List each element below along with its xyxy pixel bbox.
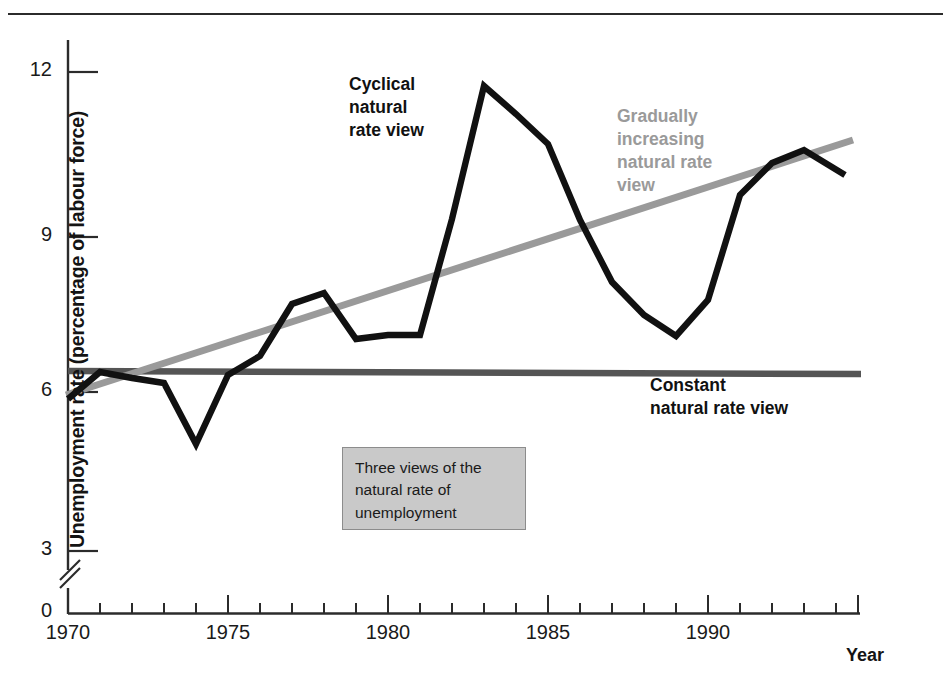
figure-container: 12 9 6 3 0 1970 1975 1980 1985 1990 Unem… (0, 0, 943, 676)
annotation-cyclical-natural-rate: Cyclical natural rate view (349, 73, 424, 142)
annotation-constant-natural-rate: Constant natural rate view (650, 374, 788, 420)
x-tick-label-1970: 1970 (23, 621, 113, 644)
x-tick-label-1980: 1980 (343, 621, 433, 644)
y-tick-label-3: 3 (12, 537, 52, 560)
y-tick-label-0: 0 (12, 599, 52, 622)
y-tick-label-9: 9 (12, 223, 52, 246)
x-axis-ticks (68, 595, 858, 613)
y-axis-title: Unemployment rate (percentage of labour … (66, 70, 89, 590)
annotation-gradual-natural-rate: Gradually increasing natural rate view (617, 105, 712, 197)
caption-box: Three views of the natural rate of unemp… (342, 447, 526, 530)
x-tick-label-1990: 1990 (663, 621, 753, 644)
chart-plot-area (0, 0, 943, 676)
x-axis-title: Year (846, 645, 884, 666)
y-tick-label-6: 6 (12, 378, 52, 401)
y-tick-label-12: 12 (12, 58, 52, 81)
x-tick-label-1975: 1975 (183, 621, 273, 644)
caption-box-text: Three views of the natural rate of unemp… (355, 457, 514, 524)
x-tick-label-1985: 1985 (503, 621, 593, 644)
